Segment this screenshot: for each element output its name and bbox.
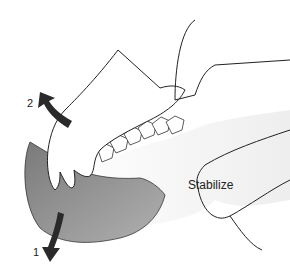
upper-arm <box>175 20 290 100</box>
stabilize-label: Stabilize <box>188 178 233 192</box>
step-1-label: 1 <box>33 246 39 258</box>
illustration <box>0 0 290 270</box>
step-2-label: 2 <box>27 97 33 109</box>
